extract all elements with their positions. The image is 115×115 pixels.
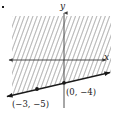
point-label-0-minus4: (0, −4) bbox=[66, 88, 96, 97]
data-point-minus3-minus5 bbox=[35, 87, 39, 91]
graph-figure: y x (−3, −5) (0, −4) bbox=[0, 0, 115, 115]
y-axis-label: y bbox=[60, 2, 65, 11]
coordinate-plane-plot bbox=[0, 0, 115, 115]
data-point-0-minus4 bbox=[62, 81, 66, 85]
point-label-minus3-minus5: (−3, −5) bbox=[12, 100, 49, 109]
x-axis-label: x bbox=[104, 53, 109, 62]
